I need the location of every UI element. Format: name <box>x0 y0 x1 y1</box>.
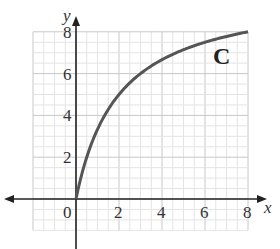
x-tick-8: 8 <box>243 203 252 222</box>
curve-label: C <box>213 43 230 69</box>
y-axis <box>72 16 80 249</box>
y-tick-2: 2 <box>63 148 72 167</box>
x-tick-6: 6 <box>200 203 209 222</box>
x-tick-4: 4 <box>157 203 166 222</box>
origin-label: 0 <box>63 203 72 222</box>
y-tick-8: 8 <box>63 23 72 42</box>
x-axis-label: x <box>263 198 272 217</box>
y-tick-6: 6 <box>63 65 72 84</box>
chart: x y C 0 2 4 6 8 2 4 6 8 <box>0 0 280 249</box>
x-axis-left-arrow-icon <box>4 195 14 203</box>
x-tick-2: 2 <box>114 203 123 222</box>
y-tick-4: 4 <box>63 106 72 125</box>
y-axis-arrow-icon <box>72 16 80 26</box>
